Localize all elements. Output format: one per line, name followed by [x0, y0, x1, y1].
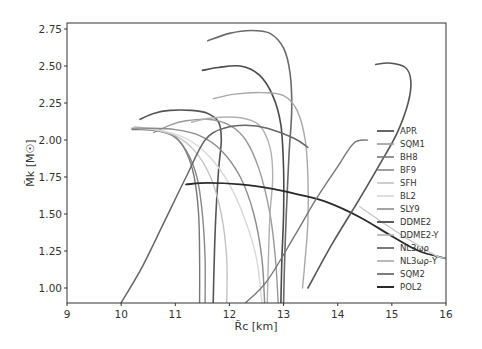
x-tick-label: 9 [64, 308, 71, 320]
x-tick-label: 10 [114, 308, 127, 320]
curve-nl3-y [213, 93, 308, 288]
y-tick-label: 1.25 [39, 245, 62, 257]
y-tick-label: 1.50 [39, 208, 62, 220]
y-tick-label: 1.00 [39, 282, 62, 294]
plot-curves [121, 31, 446, 303]
x-tick-label: 11 [169, 308, 182, 320]
legend: APRSQM1BH8BF9SFHBL2SLY9DDME2DDME2-YNL3ωρ… [377, 126, 439, 292]
legend-label: POL2 [400, 282, 422, 292]
curve-bf9 [137, 128, 205, 303]
x-axis: 910111213141516 [64, 303, 453, 320]
legend-label: NL3ωρ [400, 243, 429, 253]
y-tick-label: 2.25 [39, 97, 62, 109]
y-tick-label: 1.75 [39, 171, 62, 183]
legend-label: SFH [400, 178, 417, 188]
y-tick-label: 2.75 [39, 23, 62, 35]
legend-label: SQM2 [400, 269, 425, 279]
legend-label: DDME2 [400, 217, 431, 227]
legend-label: APR [400, 126, 417, 136]
x-tick-label: 13 [277, 308, 290, 320]
y-tick-label: 2.00 [39, 134, 62, 146]
legend-label: BF9 [400, 165, 416, 175]
mass-radius-chart: 910111213141516 1.001.251.501.752.002.25… [0, 0, 482, 349]
x-axis-label: R̃c [km] [235, 320, 278, 333]
legend-label: DDME2-Y [400, 230, 439, 240]
x-tick-label: 15 [385, 308, 398, 320]
y-tick-label: 2.50 [39, 60, 62, 72]
legend-label: SQM1 [400, 139, 425, 149]
curve-sqm2-high [308, 63, 411, 288]
x-tick-label: 14 [331, 308, 345, 320]
legend-label: BL2 [400, 191, 416, 201]
y-axis-label: M̃k [M☉] [24, 139, 37, 186]
x-tick-label: 12 [223, 308, 236, 320]
x-tick-label: 16 [439, 308, 453, 320]
legend-label: BH8 [400, 152, 418, 162]
curve-ddme2-y [192, 117, 273, 303]
y-axis: 1.001.251.501.752.002.252.502.75 [39, 23, 67, 294]
legend-label: NL3ωρ-Y [400, 256, 438, 266]
legend-label: SLY9 [400, 204, 420, 214]
